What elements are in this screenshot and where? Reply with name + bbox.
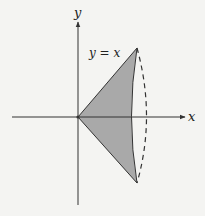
curve-label: y = x <box>88 46 120 60</box>
y-axis-label: y <box>73 5 82 20</box>
shaded-region <box>78 48 137 183</box>
dashed-ellipse-edge <box>137 48 147 183</box>
x-axis-label: x <box>188 109 196 124</box>
origin-point <box>76 115 79 118</box>
diagram-canvas: x y y = x <box>0 0 205 216</box>
